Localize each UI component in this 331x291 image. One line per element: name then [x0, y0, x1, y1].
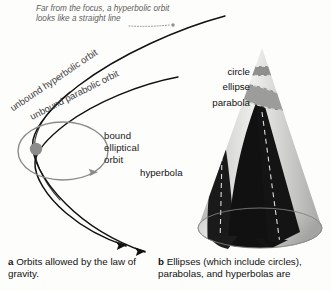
caption-b-text: Ellipses (which include circles), parabo… [158, 256, 302, 279]
hyperbolic-annotation-line2: looks like a straight line [36, 14, 121, 24]
label-bound-orbit-line1: bound [104, 130, 131, 142]
caption-a-marker: a [8, 256, 13, 267]
label-bound-orbit-line3: orbit [104, 154, 123, 166]
label-ellipse: ellipse [160, 81, 250, 93]
caption-a: a Orbits allowed by the law of gravity. [8, 256, 153, 280]
caption-b: b Ellipses (which include circles), para… [158, 256, 328, 280]
caption-b-marker: b [158, 256, 164, 267]
label-hyperbola: hyperbola [140, 167, 206, 179]
panel-b-cone-diagram [0, 0, 331, 291]
label-parabola: parabola [155, 97, 250, 109]
conic-sections-figure: Far from the focus, a hyperbolic orbit l… [0, 0, 331, 291]
label-circle: circle [160, 66, 250, 78]
caption-a-text: Orbits allowed by the law of gravity. [8, 256, 136, 279]
base-hyperbola-wedge [208, 234, 238, 249]
label-bound-orbit-line2: elliptical [104, 142, 139, 154]
hyperbolic-annotation-line1: Far from the focus, a hyperbolic orbit [36, 4, 169, 14]
